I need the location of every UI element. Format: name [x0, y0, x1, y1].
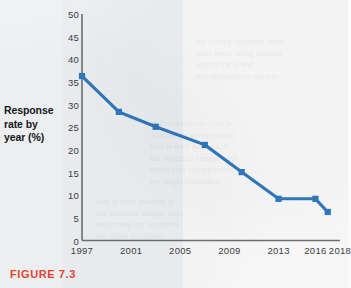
data-point-marker [325, 209, 331, 215]
figure-caption: FIGURE 7.3 [10, 268, 76, 280]
data-point-marker [116, 109, 122, 115]
data-point-marker [202, 142, 208, 148]
axis-lines [82, 14, 340, 241]
data-point-marker [79, 73, 85, 79]
line-plot [0, 0, 348, 262]
data-markers [79, 73, 331, 215]
data-point-marker [153, 124, 159, 130]
data-point-marker [312, 196, 318, 202]
data-point-marker [239, 169, 245, 175]
chart-figure: Response rate by year (%) 05101520253035… [0, 0, 348, 262]
data-point-marker [275, 196, 281, 202]
